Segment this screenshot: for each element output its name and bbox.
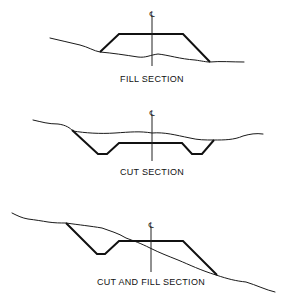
fill-embankment (100, 34, 210, 62)
cut-and-fill-section-label: CUT AND FILL SECTION (97, 277, 205, 287)
cut-section-panel: ℄ CUT SECTION (33, 109, 263, 177)
cut-centerline-symbol: ℄ (149, 109, 155, 118)
fill-centerline-symbol: ℄ (149, 10, 155, 19)
fill-section-panel: ℄ FILL SECTION (50, 10, 244, 84)
cut-section-label: CUT SECTION (120, 167, 184, 177)
cut-and-fill-centerline-symbol: ℄ (148, 221, 154, 230)
cut-ground-line (33, 120, 263, 140)
fill-ground-line (50, 38, 244, 62)
roadway-cross-sections-diagram: ℄ FILL SECTION ℄ CUT SECTION ℄ CUT AND F… (0, 0, 282, 303)
fill-section-label: FILL SECTION (120, 74, 184, 84)
cut-and-fill-section-panel: ℄ CUT AND FILL SECTION (12, 213, 275, 292)
